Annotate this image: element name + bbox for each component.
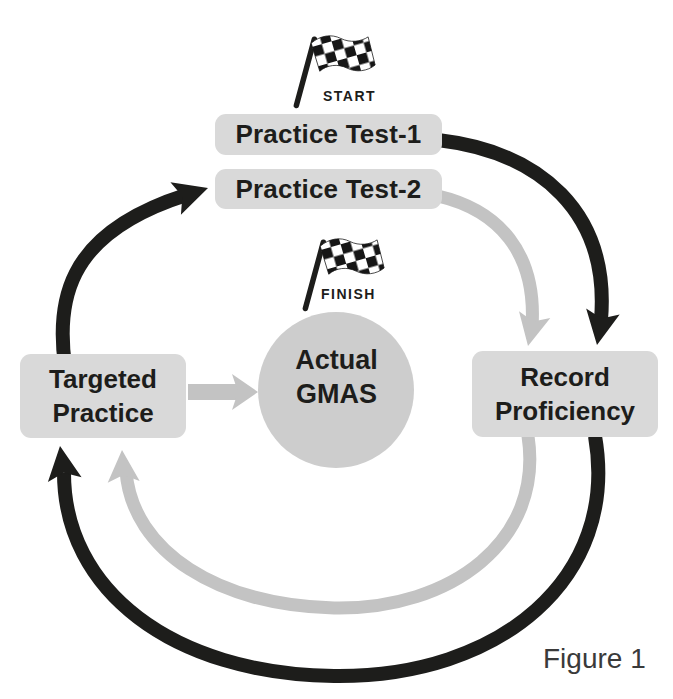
arrow-test2-to-record [438,196,532,327]
targeted-practice-line2: Practice [52,396,153,430]
record-proficiency-line1: Record [520,360,610,394]
practice-test-1-label: Practice Test-1 [235,119,421,150]
node-record-proficiency: Record Proficiency [472,351,658,437]
node-actual-gmas: Actual GMAS [258,343,415,411]
arrow-record-to-targeted-outer [64,436,598,676]
arrow-test1-to-record [438,140,602,320]
node-targeted-practice: Targeted Practice [20,354,186,438]
targeted-practice-line1: Targeted [49,362,157,396]
finish-label: FINISH [321,286,376,302]
start-label: START [323,88,376,104]
record-proficiency-line2: Proficiency [495,394,635,428]
actual-gmas-line1: Actual [295,345,378,375]
node-practice-test-2: Practice Test-2 [215,169,442,209]
practice-test-2-label: Practice Test-2 [235,174,421,205]
actual-gmas-line2: GMAS [296,379,377,409]
figure-caption: Figure 1 [543,643,646,675]
figure-1-cycle-diagram: START FINISH Practice Test-1 Practice Te… [0,0,673,699]
node-practice-test-1: Practice Test-1 [215,114,442,155]
